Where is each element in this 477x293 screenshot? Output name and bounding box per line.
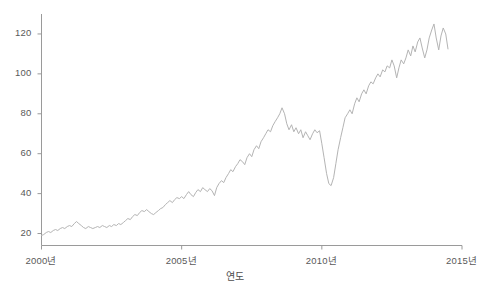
y-tick-marks [38, 34, 42, 234]
y-tick-label: 20 [6, 227, 32, 238]
y-tick-label: 40 [6, 187, 32, 198]
y-tick-label: 80 [6, 107, 32, 118]
x-tick-marks [42, 246, 463, 250]
y-tick-label: 60 [6, 147, 32, 158]
y-tick-label: 100 [6, 67, 32, 78]
x-tick-label: 2005년 [166, 253, 197, 267]
x-tick-label: 2010년 [306, 253, 337, 267]
x-tick-label: 2015년 [446, 253, 477, 267]
y-tick-label: 120 [6, 27, 32, 38]
axis-lines [42, 14, 463, 246]
data-series-line [42, 24, 448, 236]
x-axis-title: 연도 [0, 268, 470, 283]
x-tick-label: 2000년 [26, 253, 57, 267]
